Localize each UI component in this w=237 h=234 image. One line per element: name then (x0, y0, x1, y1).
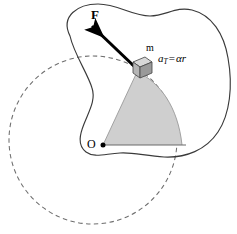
force-label: F (91, 8, 99, 21)
physics-diagram-figure: F m O aT=αr (0, 0, 237, 234)
swept-angle-sector (103, 72, 182, 145)
origin-label: O (87, 138, 96, 150)
force-vector-arrow (92, 26, 136, 68)
tangential-acceleration-label: aT=αr (158, 53, 186, 66)
accel-expression: αr (176, 52, 186, 64)
mass-label: m (146, 43, 154, 53)
mass-element-cube (133, 57, 152, 78)
accel-equals: = (168, 52, 176, 64)
diagram-canvas (0, 0, 237, 234)
pivot-point-dot (101, 143, 106, 148)
